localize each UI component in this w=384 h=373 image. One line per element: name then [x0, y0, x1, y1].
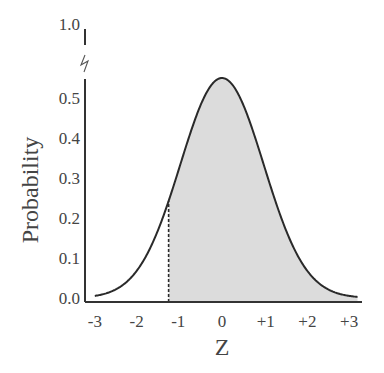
y-tick-label: 0.1 — [59, 249, 80, 268]
x-tick-label: -1 — [171, 312, 185, 331]
x-axis-label: Z — [215, 334, 230, 360]
x-tick-label: +3 — [340, 312, 358, 331]
y-tick-label: 0.4 — [59, 129, 81, 148]
y-tick-labels: 0.00.10.20.30.40.51.0 — [59, 15, 81, 308]
y-tick-label: 0.2 — [59, 209, 80, 228]
y-tick-label: 0.3 — [59, 169, 80, 188]
y-tick-label: 0.5 — [59, 89, 80, 108]
y-tick-label: 1.0 — [59, 15, 80, 34]
x-tick-label: +2 — [298, 312, 316, 331]
axis-break-icon — [81, 55, 88, 72]
x-tick-label: -3 — [88, 312, 102, 331]
x-tick-label: 0 — [218, 312, 227, 331]
x-tick-labels: -3-2-10+1+2+3 — [88, 312, 358, 331]
y-axis-label: Probability — [17, 137, 43, 244]
normal-distribution-chart: 0.00.10.20.30.40.51.0 -3-2-10+1+2+3 Prob… — [0, 0, 384, 373]
y-tick-label: 0.0 — [59, 289, 80, 308]
x-tick-label: -2 — [130, 312, 144, 331]
x-tick-label: +1 — [257, 312, 275, 331]
